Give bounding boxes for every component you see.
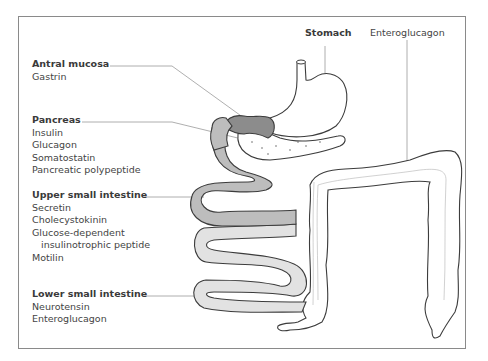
label-group-lower-small-intestine: Lower small intestine Neurotensin Entero…: [32, 288, 147, 326]
hormone-item: Neurotensin: [32, 301, 147, 314]
leader-antral-mucosa: [110, 66, 244, 118]
hormone-item: Insulin: [32, 127, 141, 140]
hormone-item: Glucagon: [32, 139, 141, 152]
label-group-pancreas: Pancreas Insulin Glucagon Somatostatin P…: [32, 114, 141, 177]
hormone-item: Cholecystokinin: [32, 214, 150, 227]
lower-small-intestine: [194, 224, 307, 312]
label-group-antral-mucosa: Antral mucosa Gastrin: [32, 58, 109, 83]
hormone-item: Gastrin: [32, 71, 109, 84]
colon: [278, 150, 462, 338]
enteroglucagon-colon-label: Enteroglucagon: [370, 27, 445, 38]
group-heading: Antral mucosa: [32, 58, 109, 71]
stomach-label: Stomach: [305, 27, 352, 38]
stomach: [264, 62, 347, 137]
hormone-item: Motilin: [32, 252, 150, 265]
group-heading: Pancreas: [32, 114, 141, 127]
hormone-item: Somatostatin: [32, 152, 141, 165]
group-heading: Lower small intestine: [32, 288, 147, 301]
hormone-item: Pancreatic polypeptide: [32, 164, 141, 177]
hormone-item: Secretin: [32, 202, 150, 215]
esophagus-opening: [297, 60, 306, 64]
label-group-upper-small-intestine: Upper small intestine Secretin Cholecyst…: [32, 189, 150, 265]
hormone-item-continuation: insulinotrophic peptide: [32, 239, 150, 252]
duodenum-upper: [211, 117, 232, 150]
hormone-item: Enteroglucagon: [32, 313, 147, 326]
hormone-item: Glucose-dependent: [32, 227, 150, 240]
group-heading: Upper small intestine: [32, 189, 150, 202]
